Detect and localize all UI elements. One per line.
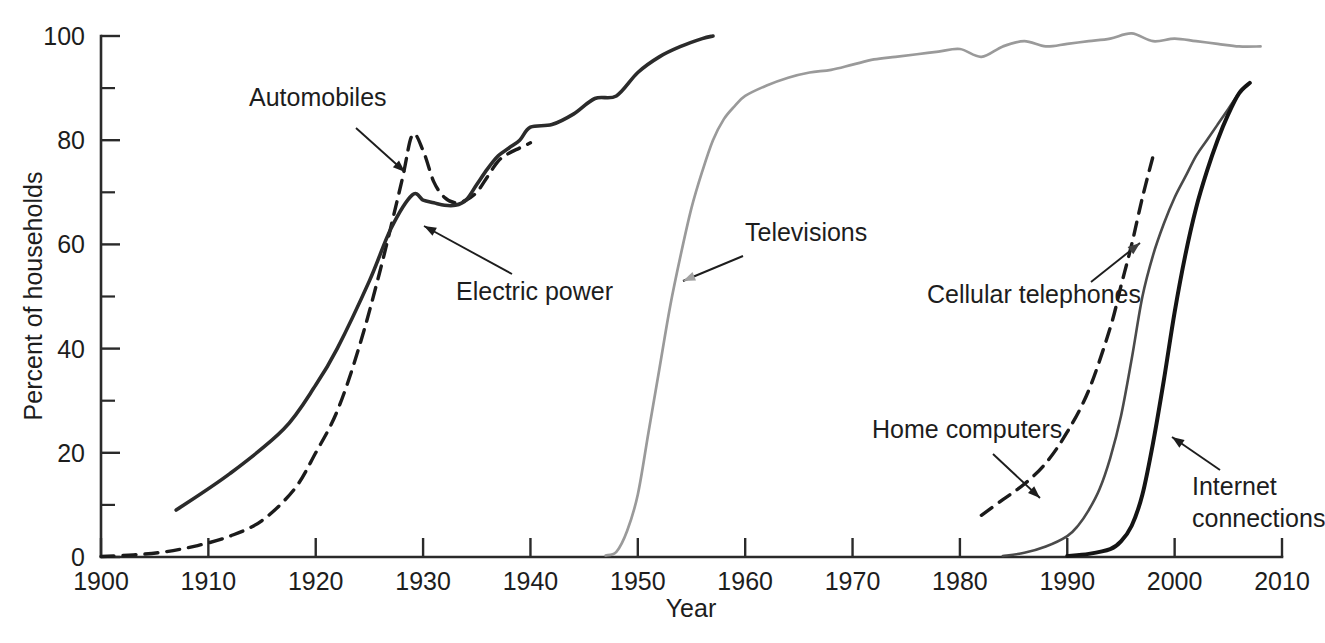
technology-adoption-line-chart: 0204060801001900191019201930194019501960… — [0, 0, 1325, 643]
annotation-label: Cellular telephones — [927, 280, 1141, 308]
annotation-label: Internet — [1192, 472, 1277, 500]
x-tick-label: 2000 — [1147, 567, 1203, 595]
x-tick-label: 1900 — [73, 567, 129, 595]
x-tick-label: 1970 — [825, 567, 881, 595]
annotation-label: connections — [1192, 504, 1325, 532]
x-tick-label: 1960 — [717, 567, 773, 595]
annotation-label: Home computers — [872, 415, 1062, 443]
y-tick-label: 40 — [57, 335, 85, 363]
x-tick-label: 2010 — [1254, 567, 1310, 595]
x-tick-label: 1930 — [395, 567, 451, 595]
x-tick-label: 1950 — [610, 567, 666, 595]
x-tick-label: 1990 — [1039, 567, 1095, 595]
x-tick-label: 1920 — [288, 567, 344, 595]
x-tick-label: 1980 — [932, 567, 988, 595]
annotation-label: Televisions — [745, 218, 867, 246]
y-tick-label: 100 — [43, 22, 85, 50]
x-axis-title: Year — [666, 594, 717, 622]
x-tick-label: 1910 — [181, 567, 237, 595]
y-tick-label: 20 — [57, 439, 85, 467]
y-tick-label: 80 — [57, 126, 85, 154]
x-tick-label: 1940 — [503, 567, 559, 595]
annotation-label: Automobiles — [249, 83, 387, 111]
chart-root: 0204060801001900191019201930194019501960… — [0, 0, 1325, 643]
y-axis-title: Percent of households — [19, 172, 47, 421]
annotation-label: Electric power — [456, 277, 613, 305]
y-tick-label: 60 — [57, 230, 85, 258]
